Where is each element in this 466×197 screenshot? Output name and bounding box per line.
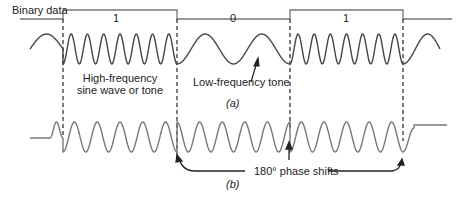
caption-b: (b) [226, 178, 239, 190]
bit-label-0: 0 [230, 12, 236, 24]
low-frequency-annotation: Low-frequency tone [193, 76, 290, 88]
psk-waveform [30, 122, 447, 152]
phase-shift-annotation: 180° phase shifts [254, 165, 339, 177]
high-frequency-line1: High-frequency [70, 72, 170, 84]
bit-label-1b: 1 [343, 12, 349, 24]
bit-label-1: 1 [113, 12, 119, 24]
fsk-waveform [30, 34, 440, 64]
high-frequency-annotation: High-frequency sine wave or tone [70, 72, 170, 96]
high-frequency-line2: sine wave or tone [70, 84, 170, 96]
caption-a: (a) [226, 97, 239, 109]
binary-data-label: Binary data [12, 4, 68, 16]
